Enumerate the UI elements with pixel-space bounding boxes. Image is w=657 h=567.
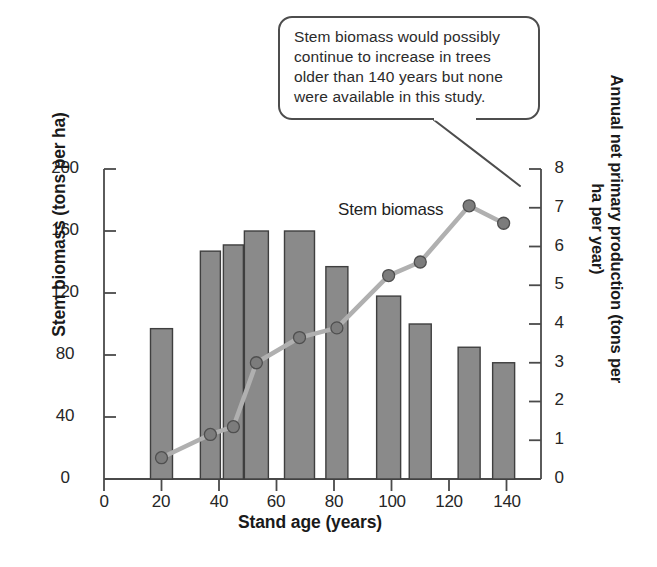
- x-tick-label-80: 80: [314, 492, 354, 512]
- data-point-marker: [383, 270, 395, 282]
- x-tick-label-140: 140: [484, 492, 530, 512]
- y2-tick-label-0: 0: [548, 468, 570, 488]
- y2-tick-label-1: 1: [548, 429, 570, 449]
- left-axis-ticks: [104, 169, 116, 417]
- x-axis-title: Stand age (years): [140, 512, 480, 533]
- y2-tick-label-4: 4: [548, 313, 570, 333]
- series-label-stem-biomass: Stem biomass: [338, 200, 443, 220]
- y2-tick-label-8: 8: [548, 158, 570, 178]
- bar: [244, 231, 268, 479]
- bar: [326, 267, 348, 479]
- bar: [223, 245, 243, 479]
- x-tick-label-0: 0: [84, 492, 124, 512]
- y2-tick-label-6: 6: [548, 236, 570, 256]
- right-axis-ticks: [529, 169, 541, 440]
- data-point-marker: [156, 452, 168, 464]
- x-tick-label-120: 120: [426, 492, 472, 512]
- data-point-marker: [250, 357, 262, 369]
- bar: [458, 347, 480, 479]
- y-tick-label-0: 0: [38, 468, 92, 488]
- data-point-marker: [414, 256, 426, 268]
- y2-axis-title: Annual net primary production (tons per …: [588, 74, 626, 384]
- y2-tick-label-3: 3: [548, 352, 570, 372]
- bar: [285, 231, 315, 479]
- bar: [409, 324, 431, 479]
- bar: [493, 363, 515, 479]
- x-tick-label-100: 100: [369, 492, 415, 512]
- x-axis-ticks: [104, 479, 507, 491]
- chart-figure: Stem biomass would possibly continue to …: [0, 0, 657, 567]
- y-axis-title: Stem biomass (tons per ha): [49, 70, 70, 380]
- data-point-marker: [204, 428, 216, 440]
- x-tick-label-40: 40: [199, 492, 239, 512]
- bar: [377, 296, 401, 479]
- data-point-marker: [294, 332, 306, 344]
- bar-series: [151, 231, 515, 479]
- data-point-marker: [463, 200, 475, 212]
- y2-tick-label-7: 7: [548, 197, 570, 217]
- y-tick-label-40: 40: [38, 406, 92, 426]
- y2-tick-label-5: 5: [548, 274, 570, 294]
- data-point-marker: [227, 421, 239, 433]
- x-tick-label-20: 20: [141, 492, 181, 512]
- data-point-marker: [331, 322, 343, 334]
- data-point-marker: [498, 217, 510, 229]
- y2-tick-label-2: 2: [548, 390, 570, 410]
- bar: [200, 251, 220, 479]
- x-tick-label-60: 60: [256, 492, 296, 512]
